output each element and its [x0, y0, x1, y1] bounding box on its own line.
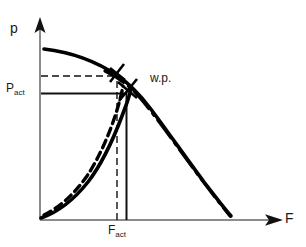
f-act-label: Fact	[108, 224, 126, 236]
diagram-canvas: p F w.p. Pact Fact	[0, 0, 306, 247]
p-act-label-main: P	[6, 81, 14, 95]
f-act-label-subscript: act	[115, 230, 126, 239]
pump-characteristic-solid-curve	[44, 49, 231, 216]
y-axis-label: p	[10, 21, 18, 35]
working-point-label: w.p.	[150, 72, 171, 84]
system-characteristic-dashed-curve	[44, 86, 123, 215]
reference-line-group	[41, 75, 127, 220]
x-axis-label: F	[285, 211, 294, 225]
p-act-label: Pact	[6, 82, 25, 94]
curve-group	[41, 49, 231, 218]
p-act-label-subscript: act	[14, 88, 25, 97]
diagram-svg	[0, 0, 306, 247]
